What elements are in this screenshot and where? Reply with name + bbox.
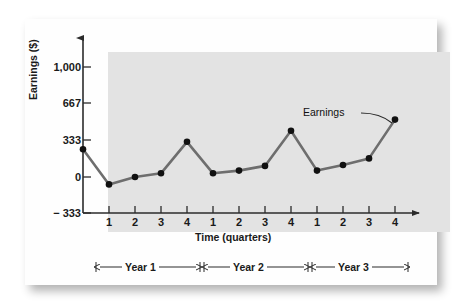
y-axis-title: Earnings ($) bbox=[27, 86, 39, 100]
earnings-line bbox=[83, 120, 395, 185]
y-tick-label-0: 0 bbox=[33, 171, 81, 183]
x-tick-label-10: 2 bbox=[333, 216, 353, 228]
x-axis-title: Time (quarters) bbox=[195, 231, 271, 243]
x-tick-label-2: 2 bbox=[125, 216, 145, 228]
y-tick-label-333: 333 bbox=[33, 134, 81, 146]
x-tick-label-6: 2 bbox=[229, 216, 249, 228]
year-bracket-label-2: Year 2 bbox=[230, 261, 267, 273]
x-tick-label-7: 3 bbox=[255, 216, 275, 228]
y-axis-ticks bbox=[83, 67, 91, 213]
x-tick-label-4: 4 bbox=[177, 216, 197, 228]
y-tick-label-1000: 1,000 bbox=[33, 61, 81, 73]
y-tick-label-667: 667 bbox=[33, 97, 81, 109]
x-axis-ticks bbox=[109, 206, 395, 213]
earnings-leader-line bbox=[361, 113, 392, 123]
x-tick-label-5: 1 bbox=[203, 216, 223, 228]
x-tick-label-9: 1 bbox=[307, 216, 327, 228]
year-bracket-label-1: Year 1 bbox=[122, 261, 159, 273]
year-bracket-label-3: Year 3 bbox=[335, 261, 372, 273]
x-tick-label-11: 3 bbox=[359, 216, 379, 228]
chart-screenshot: 1,000 667 333 0 − 333 Earnings ($) 1 2 3… bbox=[0, 0, 463, 303]
x-tick-label-1: 1 bbox=[99, 216, 119, 228]
x-tick-label-12: 4 bbox=[385, 216, 405, 228]
x-tick-label-3: 3 bbox=[151, 216, 171, 228]
x-tick-label-8: 4 bbox=[281, 216, 301, 228]
y-tick-label-neg333: − 333 bbox=[27, 207, 81, 219]
earnings-markers bbox=[80, 116, 399, 187]
earnings-annotation-label: Earnings bbox=[303, 106, 344, 118]
chart-canvas bbox=[0, 0, 463, 303]
